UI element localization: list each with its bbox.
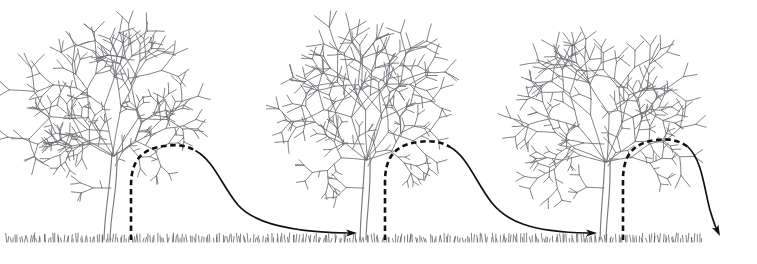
grass-blade xyxy=(87,237,88,242)
grass-blade xyxy=(417,239,418,243)
canvas-background xyxy=(0,0,757,264)
grass-blade xyxy=(538,239,539,242)
grass-blade xyxy=(153,237,154,242)
grass-blade xyxy=(263,236,264,242)
grass-blade xyxy=(686,235,687,242)
grass-blade xyxy=(522,238,523,243)
tree-dispersal-diagram xyxy=(0,0,757,264)
grass-blade xyxy=(327,236,328,242)
grass-blade xyxy=(388,237,389,242)
grass-blade xyxy=(566,234,567,242)
grass-blade xyxy=(68,236,69,242)
grass-blade xyxy=(129,237,130,242)
grass-blade xyxy=(616,235,617,243)
figure-root xyxy=(0,0,757,264)
grass-blade xyxy=(121,238,122,242)
grass-blade xyxy=(506,238,507,242)
grass-blade xyxy=(182,234,183,242)
